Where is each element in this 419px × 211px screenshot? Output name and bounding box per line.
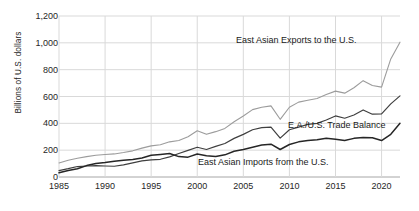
x-tick-label: 2010 [279,181,299,191]
x-tick-label: 1990 [95,181,115,191]
series-label-1: E.A./U.S. Trade Balance [288,120,386,130]
x-tick-label: 2015 [325,181,345,191]
x-tick-label: 1995 [141,181,161,191]
series-label-0: East Asian Exports to the U.S. [236,35,357,45]
series-line-0 [59,42,400,163]
series-label-2: East Asian Imports from the U.S. [198,157,329,167]
x-tick-label: 1985 [49,181,69,191]
x-tick-label: 2005 [233,181,253,191]
x-tick-label: 2000 [187,181,207,191]
plot-area [0,0,419,211]
chart-container: Billions of U.S. dollars 02004006008001,… [0,0,419,211]
x-tick-label: 2020 [372,181,392,191]
